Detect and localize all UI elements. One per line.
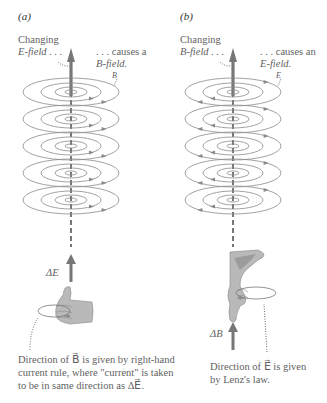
panel-a-ring-direction-arrow [89, 123, 94, 127]
panel-a-ring-direction-arrow [102, 127, 107, 131]
right-hand-thumb-down-icon [228, 250, 276, 352]
panel-b-ring-direction-arrow [210, 123, 215, 127]
right-hand-thumb-up-icon [30, 287, 93, 350]
panel-a-ring-direction-arrow [102, 181, 107, 185]
panel-b-ring-direction-arrow [210, 96, 215, 100]
panel-b-ring-direction-arrow [197, 127, 202, 131]
panel-b-source-arrow-head [229, 48, 237, 62]
panel-b-e-pointer [278, 79, 281, 86]
panel-b-ring-direction-arrow [264, 107, 269, 111]
panel-b-ring-direction-arrow [197, 154, 202, 158]
panel-a-ring-direction-arrow [102, 208, 107, 212]
panel-a-source-arrow-head [67, 48, 75, 62]
panel-a-pointer-dots [58, 62, 68, 66]
delta-b-arrow [228, 322, 238, 350]
panel-a-b-pointer [114, 79, 117, 86]
delta-e-arrow [66, 254, 76, 282]
panel-a-ring-direction-arrow [89, 150, 94, 154]
panel-b-pointer-dots [220, 62, 230, 66]
panel-a-caption-pointer [30, 318, 38, 350]
panel-b-ring-direction-arrow [197, 181, 202, 185]
panel-b-rings [185, 48, 281, 247]
panel-a-ring-direction-arrow [102, 154, 107, 158]
panel-b-ring-direction-arrow [264, 161, 269, 165]
panel-b-ring-direction-arrow [197, 208, 202, 212]
panel-a-ring-direction-arrow [89, 96, 94, 100]
panel-b-ring-direction-arrow [264, 188, 269, 192]
panel-b-caption-pointer [264, 304, 267, 352]
panel-a-ring-direction-arrow [89, 177, 94, 181]
panel-a-rings [23, 48, 119, 247]
panel-b-ring-direction-arrow [210, 177, 215, 181]
panel-b-ring-direction-arrow [210, 150, 215, 154]
panel-b-ring-direction-arrow [197, 100, 202, 104]
panel-b-ring-direction-arrow [264, 80, 269, 84]
diagram-canvas [0, 0, 327, 403]
panel-b-ring-direction-arrow [264, 134, 269, 138]
panel-b-ring-direction-arrow [210, 204, 215, 208]
panel-a-ring-direction-arrow [89, 204, 94, 208]
panel-a-ring-direction-arrow [102, 100, 107, 104]
